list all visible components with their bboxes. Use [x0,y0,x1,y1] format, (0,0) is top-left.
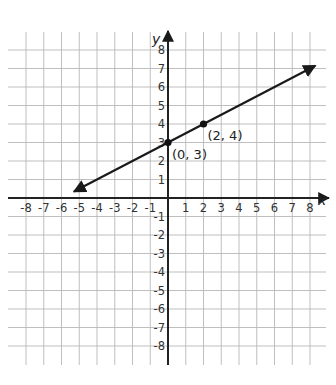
x-tick-label: -6 [56,201,67,215]
y-tick-label: -6 [154,302,165,316]
x-tick-label: 3 [218,201,225,215]
y-tick-label: 5 [158,99,165,113]
x-tick-label: -3 [109,201,120,215]
x-tick-label: -8 [20,201,31,215]
y-axis-label: y [151,31,161,47]
point-label: (0, 3) [172,147,207,162]
y-tick-label: -3 [154,247,165,261]
x-tick-label: 2 [200,201,207,215]
y-tick-label: 2 [158,154,165,168]
x-axis-label: x [317,192,327,208]
series-layer [74,66,315,192]
data-point [164,139,171,146]
y-tick-label: 4 [158,117,165,131]
x-tick-label: 8 [306,201,313,215]
y-tick-label: 6 [158,80,165,94]
x-tick-label: 1 [182,201,189,215]
series-line [74,66,315,192]
y-tick-label: -1 [154,210,165,224]
x-tick-label: 6 [271,201,278,215]
point-label: (2, 4) [208,128,243,143]
y-tick-label: 1 [158,173,165,187]
y-tick-label: -4 [154,265,165,279]
data-point [200,120,207,127]
y-tick-label: -8 [154,339,165,353]
x-tick-label: 7 [289,201,296,215]
x-tick-label: 5 [253,201,260,215]
y-tick-label: 7 [158,62,165,76]
coordinate-plane: -8-7-6-5-4-3-2-11234567887654321-1-2-3-4… [0,0,336,385]
x-tick-label: -4 [91,201,102,215]
y-tick-label: -5 [154,284,165,298]
x-tick-label: 4 [235,201,242,215]
y-tick-label: -7 [154,321,165,335]
x-tick-label: -2 [127,201,138,215]
y-tick-label: -2 [154,228,165,242]
x-tick-label: -5 [74,201,85,215]
x-tick-label: -7 [38,201,49,215]
